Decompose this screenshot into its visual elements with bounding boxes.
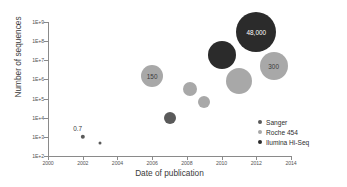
x-tick-label: 2014: [285, 160, 296, 166]
legend-item-label: Sanger: [266, 119, 287, 126]
y-tick-mark: [44, 137, 48, 138]
x-tick-label: 2008: [181, 160, 192, 166]
y-axis-title: Number of sequences: [13, 0, 23, 117]
y-tick-label-wrap: 1E+3: [14, 137, 44, 138]
y-tick-mark: [44, 41, 48, 42]
data-bubble[interactable]: [198, 96, 210, 108]
legend-swatch-dot-icon: [258, 130, 262, 134]
data-bubble[interactable]: [208, 41, 236, 69]
x-tick-label: 2004: [112, 160, 123, 166]
data-bubble[interactable]: [226, 68, 252, 94]
data-bubble[interactable]: 150: [141, 65, 163, 87]
x-tick-label: 2006: [147, 160, 158, 166]
bubble-value-label: 48,000: [247, 29, 267, 36]
x-tick-label: 2010: [216, 160, 227, 166]
data-bubble[interactable]: 300: [260, 52, 288, 80]
legend-swatch-dot-icon: [258, 120, 262, 124]
legend-swatch-dot-icon: [258, 140, 262, 144]
bubble-callout-label: 0.7: [73, 124, 82, 131]
y-tick-label: 1E+3: [18, 134, 44, 140]
y-axis-line: [48, 22, 49, 156]
y-tick-mark: [44, 79, 48, 80]
chart-legend: SangerRoche 454Ilumina Hi-Seq: [258, 117, 309, 147]
y-tick-label-wrap: 1E+4: [14, 118, 44, 119]
bubble-value-label: 300: [268, 63, 279, 70]
y-tick-label: 1E+2: [18, 153, 44, 159]
legend-item[interactable]: Sanger: [258, 117, 309, 127]
x-axis-title: Date of publication: [48, 168, 291, 178]
y-tick-mark: [44, 60, 48, 61]
y-tick-mark: [44, 22, 48, 23]
bubble-value-label: 150: [147, 73, 158, 80]
legend-item[interactable]: Roche 454: [258, 127, 309, 137]
x-tick-label: 2000: [42, 160, 53, 166]
legend-item-label: Roche 454: [266, 129, 298, 136]
legend-item-label: Ilumina Hi-Seq: [266, 139, 309, 146]
bubble-chart: 1E+91E+81E+71E+61E+51E+41E+31E+2 2000200…: [0, 0, 347, 187]
y-tick-mark: [44, 118, 48, 119]
y-tick-label-wrap: 1E+2: [14, 156, 44, 157]
legend-item[interactable]: Ilumina Hi-Seq: [258, 137, 309, 147]
y-tick-mark: [44, 99, 48, 100]
data-bubble[interactable]: [99, 141, 102, 144]
x-tick-label: 2012: [251, 160, 262, 166]
data-bubble[interactable]: 48,000: [236, 12, 276, 52]
data-bubble[interactable]: [164, 112, 176, 124]
data-bubble[interactable]: [183, 82, 197, 96]
x-axis-line: [48, 156, 291, 157]
x-tick-label: 2002: [77, 160, 88, 166]
data-bubble[interactable]: [81, 135, 85, 139]
